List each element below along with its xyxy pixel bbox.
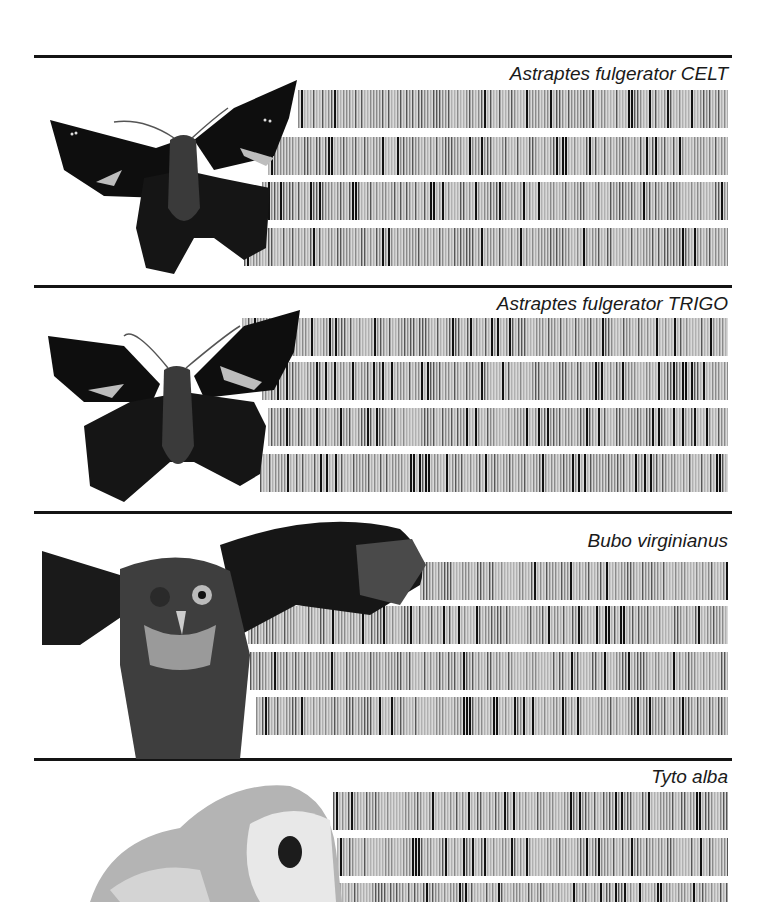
dna-barcode-strip bbox=[330, 883, 728, 902]
dna-barcode-strip bbox=[262, 362, 728, 400]
dna-barcode-strip bbox=[337, 838, 728, 876]
dna-barcode-strip bbox=[242, 318, 728, 356]
dna-barcode-strip bbox=[420, 562, 728, 600]
skipper-butterfly-image bbox=[44, 306, 302, 506]
panel-divider bbox=[34, 55, 732, 58]
skipper-butterfly-image bbox=[44, 78, 302, 278]
panel-divider bbox=[34, 285, 732, 288]
barn-owl-image bbox=[80, 770, 350, 902]
dna-barcode-strip bbox=[333, 792, 728, 830]
species-label: Astraptes fulgerator TRIGO bbox=[497, 293, 728, 315]
dna-barcode-strip bbox=[298, 90, 728, 128]
dna-barcode-strip bbox=[260, 454, 728, 492]
dna-barcode-strip bbox=[268, 137, 728, 175]
dna-barcode-strip bbox=[244, 228, 728, 266]
species-label: Astraptes fulgerator CELT bbox=[510, 63, 728, 85]
species-label: Tyto alba bbox=[651, 766, 728, 788]
great-horned-owl-image bbox=[40, 515, 432, 759]
dna-barcode-strip bbox=[262, 182, 728, 220]
panel-divider bbox=[34, 511, 732, 514]
dna-barcode-strip bbox=[268, 408, 728, 446]
species-label: Bubo virginianus bbox=[588, 530, 728, 552]
